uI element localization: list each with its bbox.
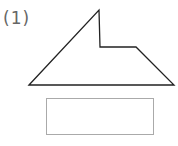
answer-box[interactable] [46, 98, 154, 135]
composite-triangle-shape [29, 10, 174, 85]
